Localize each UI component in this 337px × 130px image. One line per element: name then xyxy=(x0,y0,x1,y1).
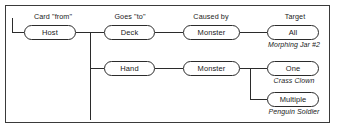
caption-crass-clown: Crass Clown xyxy=(259,77,329,84)
node-hand[interactable]: Hand xyxy=(104,61,155,76)
column-header-target: Target xyxy=(260,12,330,21)
caption-penguin-soldier: Penguin Soldier xyxy=(257,108,331,115)
node-one[interactable]: One xyxy=(267,61,319,76)
node-host[interactable]: Host xyxy=(24,25,76,40)
column-header-caused-by: Caused by xyxy=(176,12,246,21)
node-deck[interactable]: Deck xyxy=(104,25,155,40)
column-header-goes-to: Goes "to" xyxy=(95,12,165,21)
node-multiple[interactable]: Multiple xyxy=(267,92,319,107)
node-monster-top[interactable]: Monster xyxy=(183,25,240,40)
node-monster-bottom[interactable]: Monster xyxy=(183,61,240,76)
node-all[interactable]: All xyxy=(267,25,319,40)
diagram-figure: Card "from" Goes "to" Caused by Target H… xyxy=(0,0,337,130)
caption-morphing-jar: Morphing Jar #2 xyxy=(259,41,329,48)
column-header-card-from: Card "from" xyxy=(18,12,88,21)
